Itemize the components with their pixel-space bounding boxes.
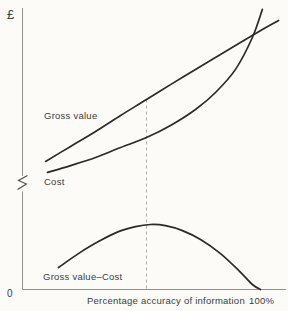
- gross-value-curve-label: Gross value: [44, 111, 97, 121]
- y-axis-unit-label: £: [7, 8, 14, 21]
- origin-tick-label: 0: [7, 289, 13, 299]
- x-axis-100-percent-tick-label: 100%: [249, 296, 274, 306]
- economics-accuracy-value-chart: £ Gross value Cost Gross value–Cost 0 Pe…: [0, 0, 288, 311]
- cost-curve-label: Cost: [44, 177, 65, 187]
- y-axis-break-icon: [18, 176, 28, 190]
- chart-canvas: [0, 0, 288, 311]
- x-axis-title: Percentage accuracy of information: [87, 296, 245, 306]
- cost-curve: [48, 9, 263, 172]
- gross-value-curve: [46, 20, 279, 161]
- gross-value-minus-cost-curve-label: Gross value–Cost: [43, 272, 123, 282]
